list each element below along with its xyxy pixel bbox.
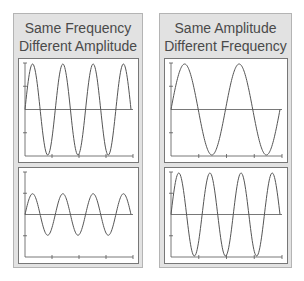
panel-title: Same Frequency Different Amplitude [14,19,142,55]
low-frequency-wave [165,59,287,162]
plot-high-amplitude [18,58,139,163]
panel-title: Same Amplitude Different Frequency [160,19,291,55]
high-frequency-wave [165,168,287,263]
title-line-2: Different Frequency [160,37,291,55]
panel-same-frequency: Same Frequency Different Amplitude [13,13,143,268]
high-amplitude-wave [19,59,138,162]
title-line-2: Different Amplitude [14,37,142,55]
title-line-1: Same Amplitude [160,19,291,37]
plot-low-frequency [164,58,288,163]
title-line-1: Same Frequency [14,19,142,37]
panel-same-amplitude: Same Amplitude Different Frequency [159,13,292,268]
plot-high-frequency [164,167,288,264]
plot-low-amplitude [18,167,139,264]
low-amplitude-wave [19,168,138,263]
